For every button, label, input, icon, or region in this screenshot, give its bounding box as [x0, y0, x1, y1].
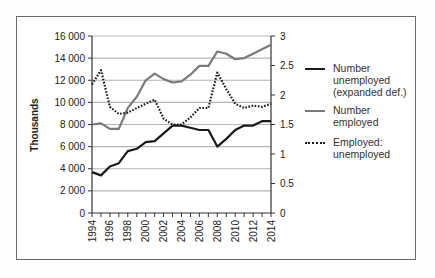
y-axis-title: Thousands — [29, 98, 40, 152]
y-tick-label: 16 000 — [54, 31, 85, 42]
legend-label-line: Number — [333, 104, 379, 116]
y-tick-label: 0 — [79, 208, 85, 219]
gridlines — [92, 36, 271, 191]
y-tick-label: 4 000 — [60, 163, 85, 174]
legend-label-line: Number — [333, 62, 407, 74]
x-tick-label: 2006 — [194, 220, 205, 243]
legend-label-line: unemployed — [333, 148, 390, 160]
series-line — [92, 70, 271, 124]
solid-line-swatch-icon — [305, 68, 325, 70]
x-tick-label: 2014 — [266, 220, 277, 243]
y2-tick-label: 2 — [280, 90, 286, 101]
x-tick-label: 2004 — [176, 220, 187, 243]
tick-labels: 02 0004 0006 0008 00010 00012 00014 0001… — [54, 31, 294, 243]
x-tick-label: 2008 — [212, 220, 223, 243]
y-tick-label: 14 000 — [54, 53, 85, 64]
legend-item: Numberemployed — [305, 104, 415, 128]
data-lines — [92, 45, 271, 176]
legend-label-line: employed — [333, 116, 379, 128]
legend-label-line: (expanded def.) — [333, 86, 407, 98]
x-tick-label: 2010 — [230, 220, 241, 243]
y-tick-label: 12 000 — [54, 75, 85, 86]
x-tick-label: 1998 — [122, 220, 133, 243]
x-tick-label: 2012 — [248, 220, 259, 243]
y-tick-label: 2 000 — [60, 185, 85, 196]
chart-legend: Numberunemployed(expanded def.)Numberemp… — [305, 62, 415, 166]
x-tick-label: 1996 — [104, 220, 115, 243]
x-tick-label: 2000 — [140, 220, 151, 243]
x-tick-label: 2002 — [158, 220, 169, 243]
y-tick-label: 8 000 — [60, 119, 85, 130]
y2-tick-label: 2.5 — [280, 60, 294, 71]
legend-item: Employed:unemployed — [305, 136, 415, 160]
y-tick-label: 6 000 — [60, 141, 85, 152]
y2-tick-label: 0 — [280, 208, 286, 219]
legend-label: Numberunemployed(expanded def.) — [333, 62, 407, 98]
dotted-line-swatch-icon — [305, 142, 325, 144]
legend-label: Numberemployed — [333, 104, 379, 128]
legend-label: Employed:unemployed — [333, 136, 390, 160]
solid-line-swatch-icon — [305, 110, 325, 112]
legend-item: Numberunemployed(expanded def.) — [305, 62, 415, 98]
y2-tick-label: 3 — [280, 31, 286, 42]
y2-tick-label: 0.5 — [280, 178, 294, 189]
x-tick-label: 1994 — [87, 220, 98, 243]
legend-label-line: Employed: — [333, 136, 390, 148]
y2-tick-label: 1 — [280, 149, 286, 160]
y2-tick-label: 1.5 — [280, 119, 294, 130]
series-line — [92, 45, 271, 129]
y-tick-label: 10 000 — [54, 97, 85, 108]
legend-label-line: unemployed — [333, 74, 407, 86]
